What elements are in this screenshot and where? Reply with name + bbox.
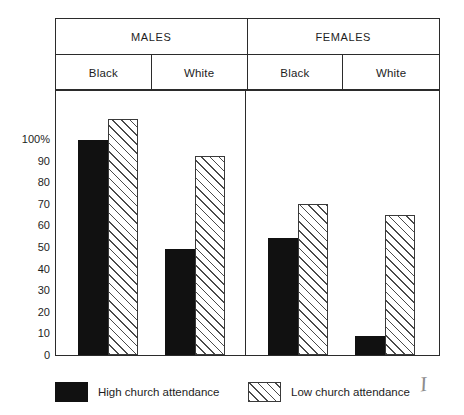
x-axis-line — [55, 355, 440, 356]
header-category-row: Black White Black White — [56, 55, 439, 90]
y-tick-70: 70 — [38, 198, 50, 210]
bars-layer — [56, 90, 440, 355]
y-tick-50: 50 — [38, 241, 50, 253]
legend-swatch-hatched — [248, 382, 281, 402]
chart-legend: High church attendance Low church attend… — [55, 379, 440, 405]
legend-item-high-attendance: High church attendance — [55, 382, 219, 402]
header-group-males: MALES — [56, 19, 248, 54]
bar-females-white-high — [355, 336, 385, 355]
bar-females-black-low — [298, 204, 328, 355]
header-category-females-black: Black — [248, 55, 344, 90]
legend-label-low-attendance: Low church attendance — [291, 386, 410, 398]
bar-males-black-high — [78, 140, 108, 355]
legend-item-low-attendance: Low church attendance — [248, 382, 410, 402]
y-tick-100: 100% — [22, 133, 50, 145]
bar-females-white-low — [385, 215, 415, 355]
y-tick-90: 90 — [38, 155, 50, 167]
header-group-females: FEMALES — [248, 19, 440, 54]
y-tick-0: 0 — [44, 349, 50, 361]
header-category-males-white: White — [152, 55, 248, 90]
header-category-males-black: Black — [56, 55, 152, 90]
header-category-females-white: White — [343, 55, 439, 90]
y-tick-10: 10 — [38, 327, 50, 339]
bar-males-white-high — [165, 249, 195, 355]
chart-header-table: MALES FEMALES Black White Black White — [55, 18, 440, 90]
y-tick-80: 80 — [38, 176, 50, 188]
bar-males-white-low — [195, 156, 225, 355]
church-attendance-bar-chart: MALES FEMALES Black White Black White 10… — [0, 0, 464, 415]
legend-label-high-attendance: High church attendance — [98, 386, 219, 398]
y-axis-tick-labels: 100% 90 80 70 60 50 40 30 20 10 0 — [0, 90, 50, 356]
bar-females-black-high — [268, 238, 298, 355]
plot-area — [55, 90, 440, 356]
y-tick-30: 30 — [38, 284, 50, 296]
legend-swatch-solid-black — [55, 382, 88, 402]
y-tick-20: 20 — [38, 306, 50, 318]
y-tick-60: 60 — [38, 219, 50, 231]
bar-males-black-low — [108, 119, 138, 355]
header-group-row: MALES FEMALES — [56, 19, 439, 55]
y-tick-40: 40 — [38, 263, 50, 275]
